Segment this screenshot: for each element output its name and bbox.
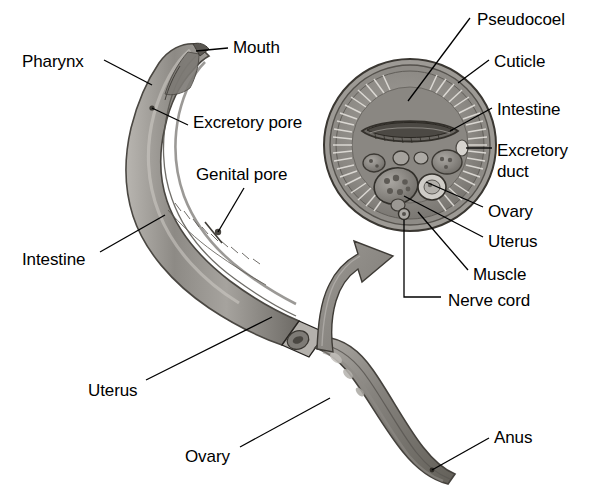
ovary-body-leader — [240, 398, 330, 447]
label-intestine-cs: Intestine — [497, 100, 560, 120]
cuticle-leader — [458, 60, 489, 83]
section-arrow — [317, 241, 393, 352]
genital-pore-structure — [205, 222, 222, 243]
label-excretory-duct: Excretory — [497, 141, 568, 161]
nematode-diagram: Pharynx Mouth Excretory pore Genital por… — [0, 0, 602, 504]
nerve-cord-organ — [399, 209, 410, 220]
worm-anterior-body — [126, 43, 326, 357]
label-intestine-body: Intestine — [22, 250, 85, 270]
uterus-body-leader — [146, 317, 272, 380]
worm-posterior-body — [315, 337, 455, 484]
label-uterus-body: Uterus — [88, 381, 137, 401]
label-mouth: Mouth — [233, 38, 280, 58]
ovary-organ — [418, 174, 446, 200]
label-cuticle: Cuticle — [494, 52, 545, 72]
label-anus: Anus — [494, 428, 532, 448]
pharynx-leader — [104, 60, 152, 85]
label-muscle: Muscle — [473, 265, 526, 285]
label-excretory-pore: Excretory pore — [193, 113, 302, 133]
label-genital-pore: Genital pore — [196, 165, 287, 185]
label-excretory-duct-line2: duct — [497, 162, 529, 182]
genital-pore-leader — [218, 188, 244, 232]
label-pseudocoel: Pseudocoel — [477, 10, 565, 30]
label-pharynx: Pharynx — [22, 52, 84, 72]
label-ovary-body: Ovary — [185, 447, 230, 467]
label-nerve-cord: Nerve cord — [448, 291, 530, 311]
label-uterus-cs: Uterus — [488, 232, 537, 252]
anus-leader — [432, 438, 489, 470]
cross-section — [324, 59, 496, 231]
label-ovary-cs: Ovary — [488, 202, 533, 222]
